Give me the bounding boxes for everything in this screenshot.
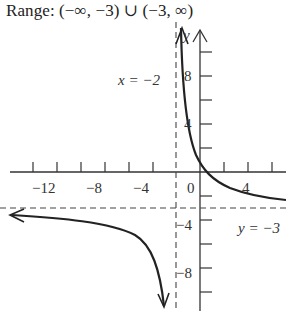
horizontal-asymptote-label: y = −3 bbox=[236, 220, 280, 236]
y-label-neg8: −8 bbox=[176, 265, 192, 281]
x-label-neg8: −8 bbox=[86, 180, 102, 196]
x-label-neg12: −12 bbox=[32, 180, 55, 196]
left-branch-curve bbox=[12, 215, 164, 306]
y-label-8: 8 bbox=[184, 68, 192, 84]
vertical-asymptote-label: x = −2 bbox=[117, 72, 160, 88]
x-label-neg4: −4 bbox=[133, 180, 149, 196]
y-label-4: 4 bbox=[184, 116, 192, 132]
graph: −12 −8 −4 0 4 8 4 −4 −8 y x = −2 y = −3 bbox=[0, 0, 286, 311]
y-axis-label: y bbox=[181, 27, 190, 43]
x-label-0: 0 bbox=[187, 180, 195, 196]
y-label-neg4: −4 bbox=[176, 217, 192, 233]
right-branch-curve bbox=[181, 28, 286, 200]
x-ticks bbox=[33, 162, 272, 172]
x-label-4: 4 bbox=[242, 180, 250, 196]
